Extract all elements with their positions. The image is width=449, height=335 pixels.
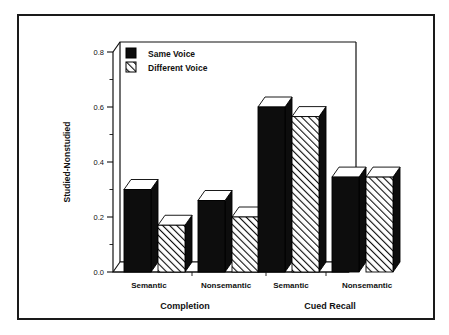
x-axis-group-labels: Completion Cued Recall [160, 301, 356, 311]
legend-label-different-voice: Different Voice [148, 63, 208, 73]
y-tick-label-2: 0.4 [94, 158, 104, 167]
y-tick-label-4: 0.0 [94, 268, 104, 277]
bar-completion-semantic-different-voice [158, 215, 192, 272]
chart-legend: Same Voice Different Voice [126, 48, 208, 73]
y-tick-label-1: 0.6 [94, 103, 104, 112]
x-category-label-2: Semantic [273, 281, 309, 290]
y-tick-label-3: 0.2 [94, 213, 104, 222]
x-category-label-0: Semantic [131, 281, 167, 290]
x-category-label-1: Nonsemantic [201, 281, 252, 290]
group-label-cued-recall: Cued Recall [304, 301, 356, 311]
bar-cued-recall-semantic-same-voice [258, 97, 292, 272]
legend-swatch-same-voice [126, 48, 136, 58]
y-axis: 0.8 0.6 0.4 0.2 0.0 Studied-Nonstudied [62, 48, 113, 277]
bar-chart: 0.8 0.6 0.4 0.2 0.0 Studied-Nonstudied [0, 0, 449, 335]
group-label-completion: Completion [160, 301, 210, 311]
bar-cued-recall-semantic-different-voice [292, 107, 326, 272]
x-category-label-3: Nonsemantic [342, 281, 393, 290]
bar-completion-semantic-same-voice [124, 180, 158, 273]
x-axis-category-labels: Semantic Nonsemantic Semantic Nonsemanti… [131, 281, 392, 290]
bar-cued-recall-nonsemantic-different-voice [366, 167, 400, 272]
bar-completion-nonsemantic-same-voice [198, 191, 232, 273]
legend-swatch-different-voice [126, 62, 136, 72]
legend-label-same-voice: Same Voice [148, 49, 195, 59]
y-axis-title: Studied-Nonstudied [62, 122, 72, 203]
bar-cued-recall-nonsemantic-same-voice [332, 167, 366, 272]
figure-container: 0.8 0.6 0.4 0.2 0.0 Studied-Nonstudied [0, 0, 449, 335]
y-tick-label-0: 0.8 [94, 48, 104, 57]
